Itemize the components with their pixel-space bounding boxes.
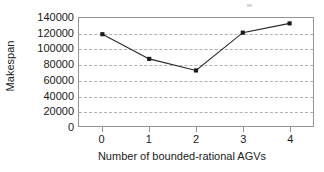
x-axis-tick-label: 3 [240,133,246,145]
x-axis-tick-mark [290,127,291,132]
y-axis-tick-label: 60000 [43,74,74,86]
y-axis-tick-label: 80000 [43,58,74,70]
data-point-marker [100,32,104,36]
x-axis-tick-mark [243,127,244,132]
y-axis-tick-label: 0 [68,121,74,133]
x-axis-tick-label: 4 [287,133,293,145]
x-axis-tick-mark [102,127,103,132]
y-axis-tick-label: 140000 [37,11,74,23]
plot-area [78,17,314,127]
series-line [102,23,289,70]
x-axis-title: Number of bounded-rational AGVs [40,150,324,162]
y-axis-tick-labels: 140000120000100000800006000040000200000 [20,11,78,133]
x-axis-tick-label: 0 [99,133,105,145]
x-axis-tick-marks [78,127,314,132]
x-axis-tick-label: 2 [193,133,199,145]
y-axis-tick-label: 40000 [43,90,74,102]
y-axis-tick-label: 20000 [43,105,74,117]
y-axis-title-text: Makespan [4,41,16,92]
y-axis-tick-label: 120000 [37,27,74,39]
x-axis-tick-mark [149,127,150,132]
y-axis-title: Makespan [0,0,20,132]
x-axis-tick-label: 1 [146,133,152,145]
x-axis-tick-mark [196,127,197,132]
x-axis-tick-labels: 01234 [78,133,314,149]
image-artifact-speck [247,4,252,7]
y-axis-tick-label: 100000 [37,42,74,54]
data-point-marker [147,57,151,61]
data-point-marker [194,68,198,72]
data-point-marker [241,31,245,35]
data-point-marker [288,21,292,25]
data-series-makespan [79,18,313,126]
line-chart: Makespan 1400001200001000008000060000400… [0,0,324,172]
